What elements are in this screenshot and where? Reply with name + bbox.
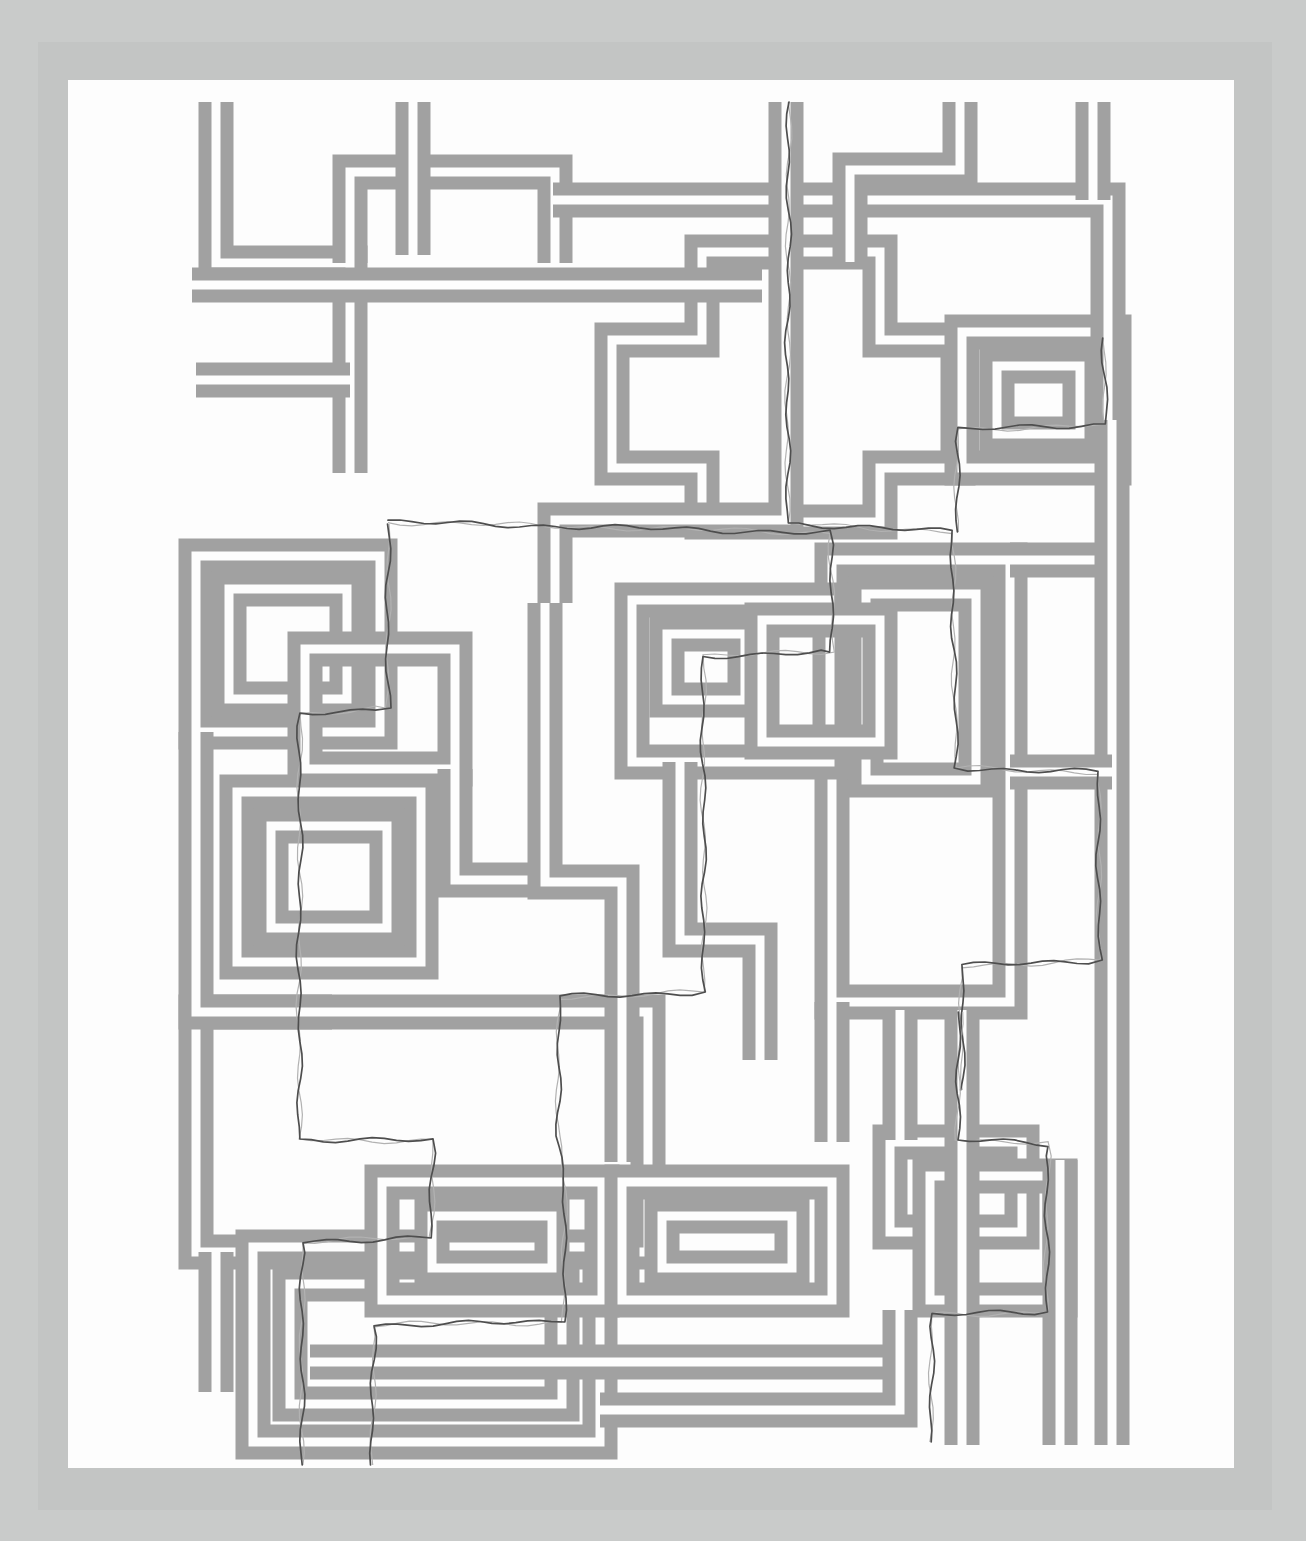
- artwork-svg: [0, 0, 1306, 1541]
- framed-maze-print: [0, 0, 1306, 1541]
